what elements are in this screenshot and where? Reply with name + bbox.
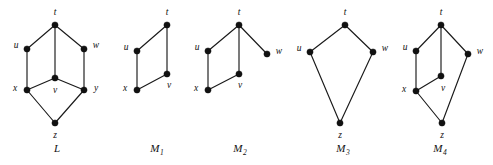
graph-vertex-x bbox=[205, 87, 211, 93]
graph-caption-m2: M2 bbox=[232, 142, 247, 157]
graph-edge-t-u bbox=[27, 25, 55, 49]
edge-layer bbox=[310, 25, 373, 123]
graph-l: tuwvxyzL bbox=[12, 7, 100, 154]
graph-vertex-t bbox=[438, 22, 444, 28]
vertex-label-t: t bbox=[440, 7, 443, 17]
graph-edge-t-w bbox=[55, 25, 84, 49]
graph-vertex-t bbox=[52, 22, 58, 28]
graph-vertex-u bbox=[307, 49, 313, 55]
graph-caption-subscript: 1 bbox=[160, 148, 164, 157]
graph-edge-x-z bbox=[416, 91, 442, 123]
graph-edge-y-z bbox=[55, 90, 84, 123]
graph-vertex-v bbox=[438, 73, 444, 79]
graph-m2: tuwvxM2 bbox=[193, 7, 283, 156]
graph-edge-x-v bbox=[208, 74, 239, 90]
graph-vertex-z bbox=[337, 120, 343, 126]
graph-edge-w-z bbox=[442, 54, 468, 123]
graph-vertex-z bbox=[439, 120, 445, 126]
vertex-label-u: u bbox=[195, 42, 200, 52]
vertex-label-v: v bbox=[238, 80, 243, 90]
vertex-label-x: x bbox=[12, 83, 18, 93]
graph-vertex-w bbox=[370, 49, 376, 55]
graph-m3: tuwzM3 bbox=[297, 7, 389, 156]
graph-caption-m3: M3 bbox=[335, 142, 350, 157]
graph-caption-m4: M4 bbox=[432, 142, 447, 157]
vertex-label-x: x bbox=[401, 84, 407, 94]
graph-vertex-x bbox=[24, 87, 30, 93]
graph-figure: tuwvxyzLtuvxM1tuwvxM2tuwzM3tuwvxzM4 bbox=[0, 0, 493, 165]
vertex-label-t: t bbox=[238, 7, 241, 17]
graph-caption-subscript: 3 bbox=[345, 148, 350, 157]
graph-caption-l: L bbox=[53, 142, 60, 154]
graph-vertex-y bbox=[81, 87, 87, 93]
vertex-label-v: v bbox=[167, 80, 172, 90]
graph-vertex-x bbox=[413, 88, 419, 94]
graph-edge-t-u bbox=[208, 25, 239, 51]
vertex-label-x: x bbox=[122, 83, 128, 93]
graph-diagram-canvas: tuwvxyzLtuvxM1tuwvxM2tuwzM3tuwvxzM4 bbox=[0, 0, 493, 165]
graph-vertex-u bbox=[24, 46, 30, 52]
graph-caption-subscript: 4 bbox=[443, 148, 447, 157]
vertex-layer: tuwvxyz bbox=[12, 7, 100, 140]
graph-edge-t-u bbox=[416, 25, 441, 51]
vertex-label-t: t bbox=[54, 7, 57, 17]
graph-vertex-u bbox=[413, 48, 419, 54]
graph-edge-t-w bbox=[441, 25, 468, 54]
graph-edge-t-u bbox=[310, 25, 345, 52]
graph-vertex-x bbox=[134, 87, 140, 93]
graph-edge-t-u bbox=[137, 25, 167, 51]
graph-caption-base: L bbox=[53, 142, 60, 154]
vertex-label-z: z bbox=[439, 130, 444, 140]
vertex-label-u: u bbox=[124, 42, 129, 52]
vertex-label-u: u bbox=[297, 43, 302, 53]
graph-caption-base: M bbox=[149, 142, 160, 154]
vertex-label-u: u bbox=[14, 40, 19, 50]
vertex-layer: tuwvxz bbox=[401, 7, 484, 140]
graph-vertex-v bbox=[164, 71, 170, 77]
vertex-layer: tuvx bbox=[122, 7, 172, 93]
graph-vertex-w bbox=[81, 46, 87, 52]
vertex-label-w: w bbox=[93, 40, 100, 50]
graph-edge-t-w bbox=[239, 25, 267, 54]
graph-edge-x-z bbox=[27, 90, 55, 123]
graph-vertex-z bbox=[52, 120, 58, 126]
graph-vertex-t bbox=[236, 22, 242, 28]
graph-edge-v-y bbox=[55, 78, 84, 90]
vertex-label-v: v bbox=[53, 85, 58, 95]
graph-edge-x-v bbox=[416, 76, 441, 91]
vertex-label-w: w bbox=[382, 43, 389, 53]
graph-caption-m1: M1 bbox=[149, 142, 164, 157]
vertex-label-t: t bbox=[166, 7, 169, 17]
vertex-label-t: t bbox=[344, 7, 347, 17]
graph-caption-base: M bbox=[232, 142, 243, 154]
vertex-label-z: z bbox=[337, 130, 342, 140]
graph-caption-base: M bbox=[335, 142, 346, 154]
vertex-label-w: w bbox=[477, 46, 484, 56]
graph-edge-t-w bbox=[345, 25, 373, 52]
graph-edge-w-z bbox=[340, 52, 373, 123]
vertex-layer: tuwz bbox=[297, 7, 389, 140]
vertex-label-u: u bbox=[403, 42, 408, 52]
graph-vertex-u bbox=[134, 48, 140, 54]
graph-edge-u-z bbox=[310, 52, 340, 123]
vertex-label-z: z bbox=[52, 130, 57, 140]
graph-vertex-v bbox=[52, 75, 58, 81]
graph-caption-base: M bbox=[432, 142, 443, 154]
graph-vertex-w bbox=[465, 51, 471, 57]
graph-edge-x-v bbox=[137, 74, 167, 90]
vertex-layer: tuwvx bbox=[193, 7, 283, 93]
graph-vertex-w bbox=[264, 51, 270, 57]
graph-m4: tuwvxzM4 bbox=[401, 7, 484, 156]
graph-vertex-v bbox=[236, 71, 242, 77]
vertex-label-w: w bbox=[276, 46, 283, 56]
graph-edge-v-x bbox=[27, 78, 55, 90]
graph-m1: tuvxM1 bbox=[122, 7, 172, 156]
edge-layer bbox=[27, 25, 84, 123]
graph-caption-subscript: 2 bbox=[243, 148, 247, 157]
graph-vertex-u bbox=[205, 48, 211, 54]
vertex-label-y: y bbox=[93, 83, 99, 93]
graph-vertex-t bbox=[164, 22, 170, 28]
graph-vertex-t bbox=[342, 22, 348, 28]
vertex-label-x: x bbox=[193, 83, 199, 93]
vertex-label-v: v bbox=[441, 83, 446, 93]
